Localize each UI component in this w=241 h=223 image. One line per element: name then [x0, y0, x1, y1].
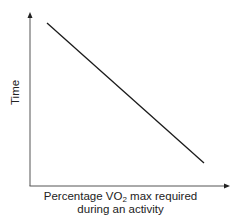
x-axis-label-line2: during an activity [0, 203, 241, 216]
x-label-post: max required [127, 190, 197, 202]
x-axis-label: Percentage VO2 max required during an ac… [0, 190, 241, 216]
y-axis-arrow-icon [28, 12, 33, 18]
data-line [47, 23, 204, 163]
x-label-pre: Percentage VO [44, 190, 123, 202]
x-axis-arrow-icon [224, 184, 230, 189]
x-axis-label-line1: Percentage VO2 max required [0, 190, 241, 203]
y-axis-label: Time [9, 80, 21, 105]
